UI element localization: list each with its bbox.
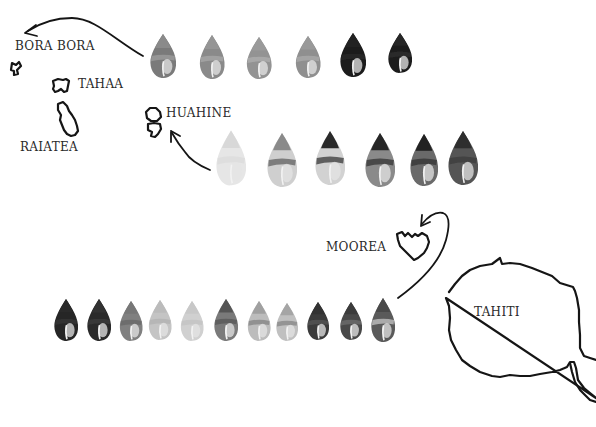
shell-specimen	[307, 302, 329, 340]
shell-specimen	[267, 133, 297, 187]
tahaa-label: TAHAA	[78, 77, 123, 91]
shell-specimen	[340, 302, 362, 340]
tahiti-row	[54, 298, 395, 342]
shell-specimen	[54, 299, 78, 341]
huahine-row	[216, 131, 478, 188]
shell-specimen	[315, 131, 345, 185]
bora-bora-row	[150, 33, 412, 79]
shell-specimen	[200, 35, 225, 79]
island-shell-diagram: BORA BORA TAHAA RAIATEA HUAHINE MOOREA T…	[0, 0, 596, 427]
shell-specimen	[216, 131, 246, 186]
shell-specimen	[371, 298, 395, 342]
shell-specimen	[149, 300, 172, 340]
shell-specimen	[388, 33, 412, 73]
shell-specimen	[365, 133, 395, 187]
bora-bora-label: BORA BORA	[15, 39, 95, 53]
shell-specimen	[340, 33, 366, 77]
shell-specimens	[0, 0, 596, 427]
shell-specimen	[296, 36, 321, 78]
shell-specimen	[120, 301, 143, 341]
shell-specimen	[150, 34, 176, 78]
moorea-label: MOOREA	[326, 240, 386, 254]
shell-specimen	[276, 303, 298, 341]
shell-specimen	[247, 37, 272, 79]
shell-specimen	[448, 131, 478, 185]
shell-specimen	[181, 301, 204, 341]
tahiti-label: TAHITI	[474, 305, 520, 319]
shell-specimen	[87, 299, 111, 341]
shell-specimen	[214, 299, 238, 341]
shell-specimen	[248, 301, 271, 341]
raiatea-label: RAIATEA	[20, 140, 78, 154]
shell-specimen	[410, 134, 438, 186]
huahine-label: HUAHINE	[166, 106, 231, 120]
